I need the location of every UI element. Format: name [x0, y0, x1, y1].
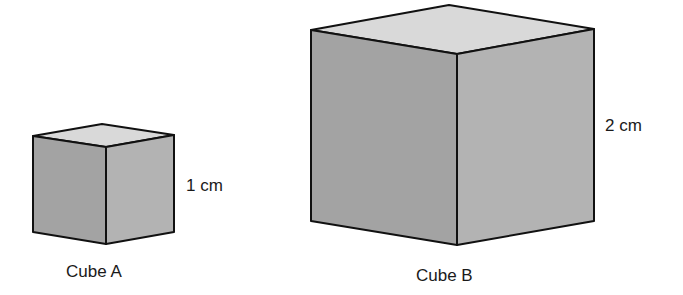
cube-b-dimension-label: 2 cm — [605, 116, 642, 136]
cube-a-name-label: Cube A — [66, 262, 122, 282]
cubes-diagram — [0, 0, 683, 295]
cube-b-right-face — [457, 29, 594, 245]
cube-a-left-face — [33, 136, 106, 244]
cube-b-left-face — [311, 30, 457, 245]
cube-a-right-face — [106, 135, 174, 244]
cube-b-name-label: Cube B — [416, 266, 473, 286]
cube-b — [311, 5, 594, 245]
cube-a — [33, 124, 174, 244]
cube-a-dimension-label: 1 cm — [186, 176, 223, 196]
